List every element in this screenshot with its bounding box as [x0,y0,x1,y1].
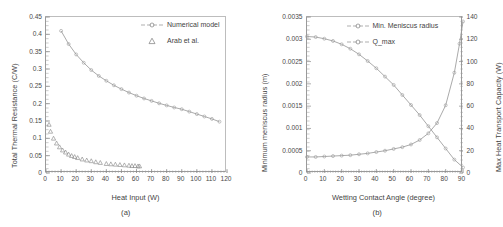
y-tick-label: 0.002 [264,79,303,86]
x-tick-label: 40 [371,175,378,182]
panel-caption-a: (a) [0,208,252,217]
y-tick-label-right: 20 [467,146,487,153]
y-axis-label-right-b: Max Heat Transport Capacity (W) [494,62,503,172]
figure-two-panel: Total Thermal Resistance (C/W) Heat Inpu… [0,0,503,227]
legend-key-triangle-icon [141,36,163,46]
x-tick-label: 40 [102,175,109,182]
x-tick-label: 70 [423,175,430,182]
y-tick-label-right: 0 [467,169,487,176]
legend-b: Min. Meniscus radius Q_max [347,20,439,52]
y-tick-label: 0.0025 [264,57,303,64]
x-tick-label: 110 [206,175,217,182]
legend-item-q-max: Q_max [347,36,439,47]
y-tick-label: 0.0005 [264,146,303,153]
x-tick-label: 0 [304,175,308,182]
y-axis-label-b: Minimum meniscus radius (m) [260,73,269,172]
y-tick-label: 0.45 [3,13,42,20]
legend-label-q-max: Q_max [373,38,396,45]
y-tick-label: 0.2 [3,99,42,106]
x-tick-label: 70 [147,175,154,182]
x-tick-label: 90 [177,175,184,182]
legend-item-arab-et-al: Arab et al. [141,35,220,46]
x-tick-label: 80 [440,175,447,182]
y-tick-label: 0.0035 [264,13,303,20]
x-tick-label: 10 [319,175,326,182]
x-tick-label: 20 [336,175,343,182]
x-tick-label: 80 [162,175,169,182]
legend-item-numerical-model: Numerical model [141,19,220,30]
legend-item-min-meniscus-radius: Min. Meniscus radius [347,20,439,31]
y-tick-label: 0.3 [3,65,42,72]
x-tick-label: 10 [56,175,63,182]
y-tick-label: 0.001 [264,124,303,131]
x-tick-label: 30 [87,175,94,182]
chart-panel-b: Minimum meniscus radius (m) Max Heat Tra… [252,0,503,227]
legend-key-line-marker-icon [347,37,369,47]
y-tick-label: 0 [3,169,42,176]
legend-label-min-meniscus-radius: Min. Meniscus radius [373,22,439,29]
x-tick-label: 60 [132,175,139,182]
x-tick-label: 30 [354,175,361,182]
y-tick-label: 0.15 [3,117,42,124]
y-tick-label: 0.0015 [264,102,303,109]
x-tick-label: 50 [388,175,395,182]
y-tick-label: 0.05 [3,151,42,158]
y-tick-label-right: 140 [467,13,487,20]
y-tick-label: 0.35 [3,47,42,54]
legend-label-numerical-model: Numerical model [167,21,220,28]
x-tick-label: 60 [406,175,413,182]
y-tick-label-right: 100 [467,57,487,64]
x-axis-label-a: Heat Input (W) [45,193,226,202]
x-tick-label: 50 [117,175,124,182]
x-tick-label: 20 [71,175,78,182]
x-tick-label: 100 [190,175,201,182]
chart-panel-a: Total Thermal Resistance (C/W) Heat Inpu… [0,0,252,227]
y-tick-label-right: 80 [467,79,487,86]
y-tick-label-right: 60 [467,102,487,109]
x-tick-label: 120 [220,175,231,182]
y-tick-label: 0.25 [3,82,42,89]
legend-key-line-marker-icon [141,20,163,30]
y-tick-label-right: 120 [467,35,487,42]
legend-a: Numerical model Arab et al. [141,19,220,51]
legend-key-line-marker-icon [347,21,369,31]
x-tick-label: 90 [458,175,465,182]
x-tick-label: 0 [43,175,47,182]
y-tick-label-right: 40 [467,124,487,131]
y-tick-label: 0.4 [3,30,42,37]
legend-label-arab-et-al: Arab et al. [167,37,199,44]
y-tick-label: 0.003 [264,35,303,42]
y-tick-label: 0.1 [3,134,42,141]
y-tick-label: 0 [264,169,303,176]
panel-caption-b: (b) [252,208,503,217]
x-axis-label-b: Wetting Contact Angle (degree) [296,193,472,202]
